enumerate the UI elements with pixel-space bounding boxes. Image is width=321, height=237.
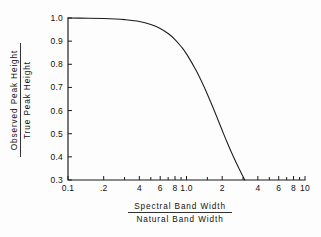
y-axis-label-denominator: True Peak Height (23, 61, 32, 139)
x-tick-label: 2 (220, 183, 225, 193)
y-axis-label: Observed Peak Height True Peak Height (10, 43, 32, 157)
x-tick-label: .2 (100, 183, 108, 193)
x-axis-label: Spectral Band Width Natural Band Width (128, 202, 232, 224)
x-axis-label-denominator: Natural Band Width (136, 215, 223, 224)
y-tick-label: 0.7 (51, 82, 63, 92)
axis-lines (68, 18, 305, 180)
x-tick-label: 8 (173, 183, 178, 193)
data-series-curve (68, 18, 245, 180)
x-tick-label: 6 (276, 183, 281, 193)
y-tick-label: 0.5 (51, 129, 63, 139)
x-axis-ticks (68, 176, 305, 180)
y-tick-label: 0.4 (51, 152, 63, 162)
x-tick-label: 10 (300, 183, 310, 193)
x-tick-label: 4 (137, 183, 142, 193)
x-tick-label: 0.1 (62, 183, 74, 193)
x-axis-tick-labels: 0.1.24681.0246810 (62, 183, 310, 193)
x-tick-label: 1.0 (180, 183, 192, 193)
x-tick-label: 6 (158, 183, 163, 193)
y-tick-label: 1.0 (51, 13, 63, 23)
y-tick-label: 0.9 (51, 36, 63, 46)
x-tick-label: 4 (255, 183, 260, 193)
y-tick-label: 0.6 (51, 106, 63, 116)
chart-figure: 0.30.40.50.60.70.80.91.0 0.1.24681.02468… (0, 0, 321, 237)
chart-canvas: 0.30.40.50.60.70.80.91.0 0.1.24681.02468… (0, 0, 321, 237)
y-axis-label-numerator: Observed Peak Height (10, 50, 19, 150)
y-axis-tick-labels: 0.30.40.50.60.70.80.91.0 (51, 13, 63, 185)
x-tick-label: 8 (291, 183, 296, 193)
x-axis-label-numerator: Spectral Band Width (134, 202, 226, 211)
y-tick-label: 0.8 (51, 59, 63, 69)
y-axis-ticks (68, 18, 72, 180)
